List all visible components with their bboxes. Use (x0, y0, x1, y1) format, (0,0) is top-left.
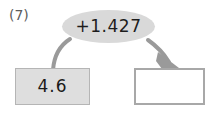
operator-ellipse: +1.427 (62, 10, 155, 43)
arrowhead-icon (156, 52, 179, 69)
operator-text: +1.427 (76, 16, 142, 36)
connector-input-to-operator (53, 39, 70, 70)
answer-box[interactable] (134, 68, 205, 105)
worksheet-problem-figure: (7) +1.427 4.6 (0, 0, 217, 115)
input-value-box: 4.6 (15, 68, 90, 105)
input-value-text: 4.6 (37, 76, 67, 96)
